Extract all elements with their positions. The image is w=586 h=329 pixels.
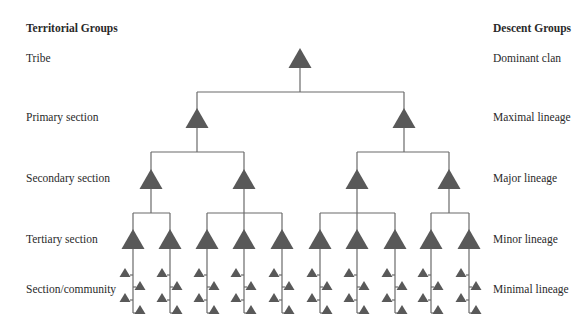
community-triangle-icon xyxy=(456,268,467,277)
secondary-section-triangle-icon xyxy=(438,169,461,189)
tertiary-section-triangle-icon xyxy=(384,229,407,249)
community-triangle-icon xyxy=(209,305,220,314)
tertiary-section-triangle-icon xyxy=(420,229,443,249)
community-triangle-icon xyxy=(120,268,131,277)
community-triangle-icon xyxy=(397,305,408,314)
community-triangle-icon xyxy=(307,293,318,302)
community-triangle-icon xyxy=(418,268,429,277)
secondary-section-triangle-icon xyxy=(233,169,256,189)
community-triangle-icon xyxy=(135,281,146,290)
tertiary-section-triangle-icon xyxy=(309,229,332,249)
community-triangle-icon xyxy=(471,281,482,290)
community-triangle-icon xyxy=(359,281,370,290)
community-triangle-icon xyxy=(269,293,280,302)
secondary-section-triangle-icon xyxy=(140,169,163,189)
community-triangle-icon xyxy=(397,281,408,290)
community-triangle-icon xyxy=(120,293,131,302)
tertiary-section-triangle-icon xyxy=(122,229,145,249)
community-triangle-icon xyxy=(246,281,257,290)
community-triangle-icon xyxy=(418,293,429,302)
community-triangle-icon xyxy=(194,268,205,277)
primary-section-triangle-icon xyxy=(393,108,416,128)
community-triangle-icon xyxy=(471,305,482,314)
community-triangle-icon xyxy=(307,268,318,277)
community-triangle-icon xyxy=(172,281,183,290)
tertiary-section-triangle-icon xyxy=(196,229,219,249)
tertiary-section-triangle-icon xyxy=(271,229,294,249)
community-triangle-icon xyxy=(194,293,205,302)
community-triangle-icon xyxy=(269,268,280,277)
community-triangle-icon xyxy=(172,305,183,314)
community-triangle-icon xyxy=(456,293,467,302)
community-triangle-icon xyxy=(231,268,242,277)
tertiary-section-triangle-icon xyxy=(458,229,481,249)
community-triangle-icon xyxy=(433,305,444,314)
community-triangle-icon xyxy=(135,305,146,314)
community-triangle-icon xyxy=(284,281,295,290)
community-triangle-icon xyxy=(209,281,220,290)
secondary-section-triangle-icon xyxy=(346,169,369,189)
community-triangle-icon xyxy=(433,281,444,290)
tertiary-section-triangle-icon xyxy=(233,229,256,249)
community-triangle-icon xyxy=(231,293,242,302)
community-triangle-icon xyxy=(157,268,168,277)
community-triangle-icon xyxy=(246,305,257,314)
community-triangle-icon xyxy=(157,293,168,302)
primary-section-triangle-icon xyxy=(186,108,209,128)
community-triangle-icon xyxy=(322,281,333,290)
segmentary-lineage-tree xyxy=(0,0,586,329)
community-triangle-icon xyxy=(322,305,333,314)
tertiary-section-triangle-icon xyxy=(159,229,182,249)
community-triangle-icon xyxy=(344,268,355,277)
tribe-triangle-icon xyxy=(289,48,312,68)
tertiary-section-triangle-icon xyxy=(346,229,369,249)
community-triangle-icon xyxy=(382,268,393,277)
community-triangle-icon xyxy=(344,293,355,302)
community-triangle-icon xyxy=(382,293,393,302)
community-triangle-icon xyxy=(284,305,295,314)
community-triangle-icon xyxy=(359,305,370,314)
